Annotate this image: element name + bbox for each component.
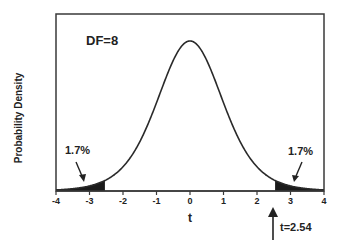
x-tick-label: 0 xyxy=(187,196,192,206)
critical-value-label: t=2.54 xyxy=(280,221,312,233)
x-tick-label: -3 xyxy=(85,196,93,206)
x-tick-label: 4 xyxy=(321,196,326,206)
x-axis-ticks: -4-3-2-101234 xyxy=(52,191,327,206)
x-tick-label: 2 xyxy=(254,196,259,206)
left-arrow-icon xyxy=(76,162,86,182)
critical-value-arrow-icon xyxy=(268,207,278,240)
df-label: DF=8 xyxy=(86,33,118,48)
x-axis-label: t xyxy=(188,211,192,225)
right-arrow-icon xyxy=(292,162,302,182)
right-tail-percent-label: 1.7% xyxy=(288,145,313,157)
density-curve xyxy=(56,41,324,190)
x-tick-label: -4 xyxy=(52,196,60,206)
x-tick-label: -2 xyxy=(119,196,127,206)
y-axis-label: Probability Density xyxy=(13,72,24,163)
x-tick-label: 3 xyxy=(288,196,293,206)
x-tick-label: -1 xyxy=(152,196,160,206)
left-tail-percent-label: 1.7% xyxy=(65,144,90,156)
x-tick-label: 1 xyxy=(221,196,226,206)
t-distribution-chart: -4-3-2-101234 DF=8 Probability Density t… xyxy=(0,0,339,247)
